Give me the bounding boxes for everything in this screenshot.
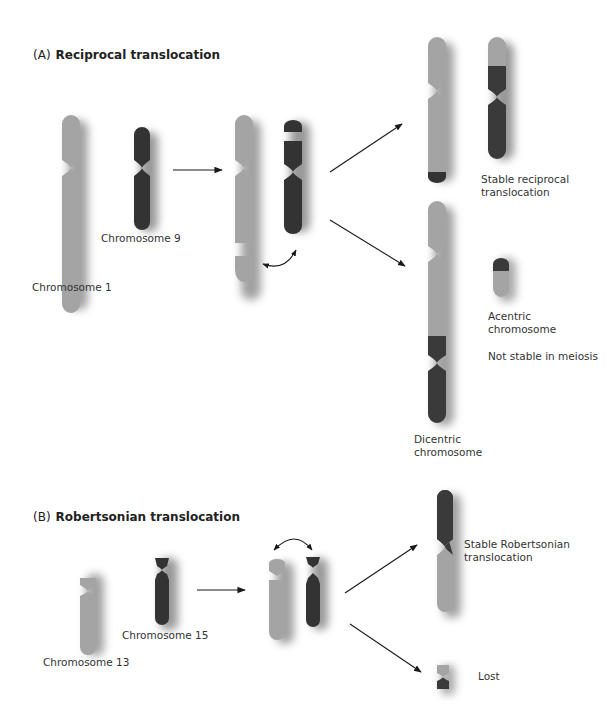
label-stable-robertsonian-1: Stable Robertsonian <box>464 538 570 551</box>
panel-a-tag: (A) <box>33 48 51 62</box>
panel-b-title: Robertsonian translocation <box>56 510 240 524</box>
chromosome-15 <box>155 558 178 630</box>
lost-fragment <box>437 665 455 695</box>
label-chromosome-13: Chromosome 13 <box>43 656 129 669</box>
swap-arrow-b <box>274 539 312 550</box>
robertsonian-chromosome <box>437 490 461 618</box>
arrow-b-lost <box>350 624 421 672</box>
label-chromosome-9: Chromosome 9 <box>101 232 181 245</box>
chromosome-9-broken <box>284 120 310 234</box>
dicentric-chromosome <box>428 201 454 426</box>
panel-b-tag: (B) <box>33 510 51 524</box>
panel-a-heading: (A)Reciprocal translocation <box>33 48 220 62</box>
chromosome-13 <box>80 574 104 656</box>
label-stable-robertsonian-2: translocation <box>464 551 533 564</box>
arrow-a-unstable <box>330 220 405 266</box>
label-lost: Lost <box>478 670 500 683</box>
label-not-stable: Not stable in meiosis <box>488 350 598 363</box>
stable-derivative-9 <box>488 37 514 160</box>
label-stable-reciprocal-2: translocation <box>481 186 550 199</box>
label-chromosome-1: Chromosome 1 <box>32 281 112 294</box>
arrow-b-stable <box>345 545 417 593</box>
chromosome-15-broken <box>306 557 328 630</box>
label-acentric-1: Acentric <box>488 310 531 323</box>
label-dicentric-1: Dicentric <box>414 433 461 446</box>
label-acentric-2: chromosome <box>488 323 556 336</box>
chromosome-9 <box>134 127 158 232</box>
chromosome-13-broken <box>269 559 294 644</box>
stable-derivative-1 <box>428 37 454 183</box>
swap-arrow-a <box>263 250 296 266</box>
panel-b-heading: (B)Robertsonian translocation <box>33 510 240 524</box>
label-stable-reciprocal-1: Stable reciprocal <box>481 173 569 186</box>
label-dicentric-2: chromosome <box>414 446 482 459</box>
arrow-a-stable <box>330 124 402 172</box>
label-chromosome-15: Chromosome 15 <box>122 629 208 642</box>
acentric-chromosome <box>493 258 516 302</box>
chromosome-1-broken <box>235 115 261 300</box>
panel-a-title: Reciprocal translocation <box>56 48 221 62</box>
